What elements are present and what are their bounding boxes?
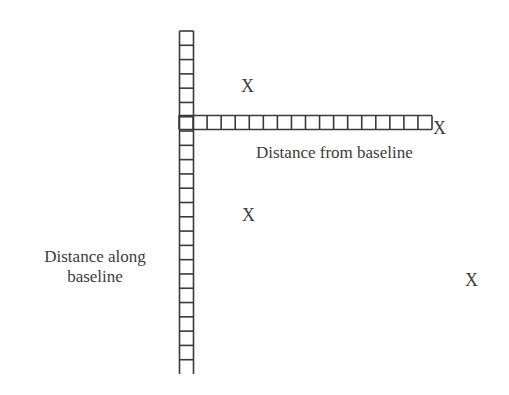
baseline-offset-diagram: Distance from baseline Distance along ba… xyxy=(0,0,509,395)
point-marker-1: X xyxy=(241,77,254,95)
distance-along-baseline-label: Distance along baseline xyxy=(24,247,166,287)
distance-along-baseline-line2: baseline xyxy=(24,267,166,287)
ruler-drawing xyxy=(0,0,509,395)
point-marker-3: X xyxy=(242,206,255,224)
distance-along-baseline-line1: Distance along xyxy=(24,247,166,267)
horizontal-ruler-offset xyxy=(179,116,432,130)
point-marker-2: X xyxy=(433,119,446,137)
distance-from-baseline-label: Distance from baseline xyxy=(256,143,413,163)
point-marker-4: X xyxy=(465,271,478,289)
vertical-ruler-baseline xyxy=(180,31,194,374)
